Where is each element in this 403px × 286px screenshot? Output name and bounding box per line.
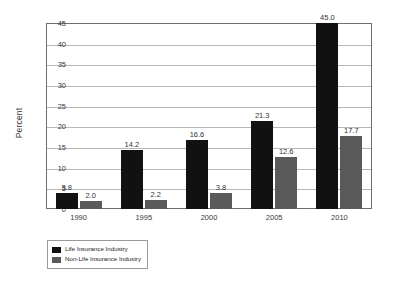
bar-nonlife [145, 200, 167, 209]
bar-value-label: 16.6 [190, 130, 205, 139]
bar-nonlife [275, 157, 297, 209]
bar-value-label: 2.2 [151, 190, 161, 199]
bar-value-label: 3.8 [216, 183, 226, 192]
bar-life [316, 23, 338, 209]
bar-life [56, 193, 78, 209]
x-tick-label: 2005 [266, 213, 283, 222]
bar-group: 45.017.7 [307, 23, 372, 209]
bar-nonlife [340, 136, 362, 209]
y-axis-title: Percent [14, 88, 24, 158]
bar-value-label: 21.3 [255, 111, 270, 120]
x-tick-label: 2010 [331, 213, 348, 222]
legend-swatch-icon [52, 257, 61, 263]
bar-life [186, 140, 208, 209]
legend-swatch-icon [52, 247, 61, 253]
bar-life [251, 121, 273, 209]
bar-value-label: 14.2 [124, 140, 139, 149]
bar-value-label: 45.0 [320, 13, 335, 22]
x-tick-label: 2000 [201, 213, 218, 222]
x-tick-label: 1990 [70, 213, 87, 222]
legend-item-label: Life Insurance Industry [65, 246, 128, 252]
bar-group: 21.312.6 [242, 23, 307, 209]
bar-nonlife [210, 193, 232, 209]
x-tick-label: 1995 [135, 213, 152, 222]
legend-item-life: Life Insurance Industry [52, 245, 141, 254]
bar-value-label: 2.0 [85, 191, 95, 200]
bar-value-label: 12.6 [279, 147, 294, 156]
legend: Life Insurance Industry Non-Life Insuran… [47, 240, 148, 269]
bar-group: 3.82.0 [46, 23, 111, 209]
legend-item-label: Non-Life Insurance Industry [65, 256, 141, 262]
bar-chart: Percent 454035302520151050 3.82.014.22.2… [0, 0, 403, 286]
bar-series-layer: 3.82.014.22.216.63.821.312.645.017.7 [46, 23, 372, 209]
bar-value-label: 3.8 [61, 183, 71, 192]
bar-value-label: 17.7 [344, 126, 359, 135]
bar-group: 14.22.2 [111, 23, 176, 209]
bar-nonlife [80, 201, 102, 209]
bar-group: 16.63.8 [176, 23, 241, 209]
legend-item-nonlife: Non-Life Insurance Industry [52, 255, 141, 264]
bar-life [121, 150, 143, 209]
